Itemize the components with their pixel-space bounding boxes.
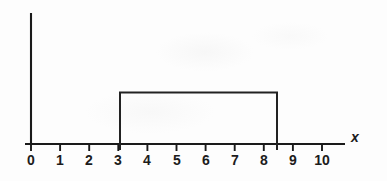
x-tick-label-1: 1 [56,152,64,168]
x-tick-label-6: 6 [202,152,210,168]
x-tick-label-8: 8 [260,152,268,168]
x-axis-label: x [351,129,359,145]
x-tick-label-9: 9 [289,152,297,168]
x-tick-label-4: 4 [143,152,151,168]
x-tick-label-7: 7 [231,152,239,168]
uniform-distribution-rectangle [120,93,277,151]
x-tick-label-0: 0 [27,152,35,168]
x-tick-label-10: 10 [314,152,330,168]
uniform-distribution-figure: 0 1 2 3 4 5 6 7 8 9 10 x [0,0,387,181]
x-tick-label-2: 2 [85,152,93,168]
x-tick-label-3: 3 [114,152,122,168]
x-tick-label-5: 5 [173,152,181,168]
